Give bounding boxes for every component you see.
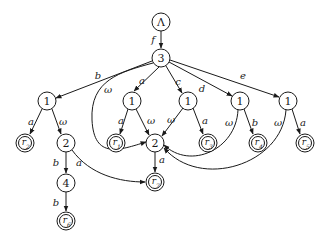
- label-a-2a: a: [76, 157, 82, 168]
- svg-text:6: 6: [67, 221, 71, 228]
- svg-text:3: 3: [158, 52, 165, 65]
- label-a-1e: a: [300, 117, 306, 128]
- label-b-2a: b: [53, 157, 59, 168]
- svg-text:1: 1: [185, 95, 192, 108]
- node-1-c: 1: [179, 92, 197, 110]
- label-c: c: [175, 76, 181, 87]
- node-1-b: 1: [38, 92, 56, 110]
- label-d: d: [199, 83, 205, 94]
- node-1-a: 1: [123, 92, 141, 110]
- label-a-1b: a: [118, 115, 124, 126]
- svg-text:4: 4: [258, 143, 263, 150]
- svg-text:5: 5: [306, 143, 310, 150]
- label-b: b: [95, 70, 101, 81]
- node-r4: r 4: [249, 134, 267, 152]
- svg-text:1: 1: [117, 143, 121, 150]
- svg-text:2: 2: [25, 143, 30, 150]
- label-f: f: [150, 34, 157, 45]
- label-omega-1d: ω: [225, 117, 233, 128]
- label-a-3: a: [139, 75, 145, 86]
- node-3: 3: [152, 49, 170, 67]
- label-e: e: [240, 70, 246, 81]
- node-r7: r 7: [146, 173, 164, 191]
- svg-text:1: 1: [237, 95, 244, 108]
- edge-3-1b: [134, 67, 159, 91]
- node-r5: r 5: [296, 134, 314, 152]
- node-2-center: 2: [146, 134, 164, 152]
- node-r1: r 1: [107, 134, 125, 152]
- label-omega-1b: ω: [147, 115, 155, 126]
- label-omega-1e: ω: [274, 117, 282, 128]
- node-1-d: 1: [231, 92, 249, 110]
- label-omega-1c: ω: [167, 114, 175, 125]
- svg-text:1: 1: [129, 95, 136, 108]
- label-b-4: b: [53, 197, 59, 208]
- node-2-left: 2: [57, 134, 75, 152]
- label-omega-3: ω: [104, 84, 112, 95]
- svg-text:1: 1: [44, 95, 51, 108]
- node-r2: r 2: [16, 134, 34, 152]
- edge-1e-r5: [292, 109, 300, 134]
- automaton-diagram: f b a c d e ω a ω a ω ω a ω b ω a b a a …: [0, 0, 326, 241]
- label-a-2b: a: [159, 154, 165, 165]
- node-1-e: 1: [279, 92, 297, 110]
- label-omega-1a: ω: [59, 116, 67, 127]
- svg-text:2: 2: [152, 137, 159, 150]
- svg-text:4: 4: [63, 177, 70, 190]
- svg-text:3: 3: [209, 143, 213, 150]
- label-b-1d: b: [252, 117, 258, 128]
- label-a-1c: a: [202, 115, 208, 126]
- node-4: 4: [57, 174, 75, 192]
- node-r3: r 3: [199, 134, 217, 152]
- label-a-1a: a: [28, 116, 34, 127]
- svg-text:7: 7: [156, 182, 160, 189]
- svg-text:2: 2: [63, 137, 70, 150]
- svg-text:1: 1: [285, 95, 292, 108]
- edge-2a-r7: [72, 150, 145, 182]
- node-lambda: Λ: [152, 13, 170, 31]
- svg-text:Λ: Λ: [156, 16, 166, 29]
- node-r6: r 6: [57, 212, 75, 230]
